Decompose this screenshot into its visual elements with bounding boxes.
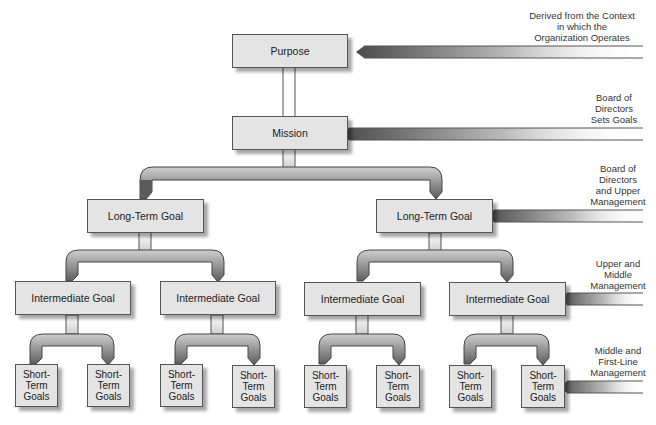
short-term-line1: Short-	[168, 369, 195, 380]
side-label-purpose: Derived from the Context in which the Or…	[516, 10, 648, 43]
side-label-short-term: Middle and First-Line Management	[586, 345, 650, 378]
side-arrow-intermediate	[559, 293, 643, 305]
purpose-box: Purpose	[232, 34, 348, 68]
mission-box: Mission	[232, 116, 348, 150]
short-term-goals-box-8: Short- Term Goals	[521, 365, 565, 408]
long-term-goal-box-right: Long-Term Goal	[376, 199, 493, 233]
int-3-branch-arrow	[319, 315, 405, 365]
short-term-line1: Short-	[240, 370, 267, 381]
short-term-line3: Goals	[385, 392, 411, 403]
short-term-line2: Term	[532, 381, 554, 392]
long-term-goal-label: Long-Term Goal	[397, 211, 472, 222]
short-term-line3: Goals	[457, 392, 483, 403]
short-term-line2: Term	[387, 381, 409, 392]
side-arrow-mission	[341, 128, 643, 140]
side-label-intermediate: Upper and Middle Management	[586, 258, 650, 291]
intermediate-goal-box-1: Intermediate Goal	[15, 281, 131, 315]
short-term-line2: Term	[97, 380, 119, 391]
long-term-goal-box-left: Long-Term Goal	[87, 199, 204, 233]
short-term-line1: Short-	[457, 370, 484, 381]
short-term-line2: Term	[170, 380, 192, 391]
intermediate-goal-box-3: Intermediate Goal	[304, 282, 421, 316]
short-term-goals-box-4: Short- Term Goals	[232, 365, 275, 408]
short-term-line1: Short-	[384, 370, 411, 381]
long-term-goal-label: Long-Term Goal	[108, 211, 183, 222]
purpose-mission-connector	[283, 67, 295, 116]
short-term-line2: Term	[459, 381, 481, 392]
short-term-goals-box-3: Short- Term Goals	[160, 364, 203, 407]
intermediate-goal-label: Intermediate Goal	[31, 293, 114, 304]
short-term-line1: Short-	[529, 370, 556, 381]
intermediate-goal-label: Intermediate Goal	[321, 294, 404, 305]
short-term-goals-box-6: Short- Term Goals	[376, 365, 420, 408]
short-term-goals-box-1: Short- Term Goals	[15, 364, 58, 407]
side-arrow-long-term	[486, 210, 643, 222]
side-label-mission: Board of Directors Sets Goals	[580, 92, 648, 125]
short-term-line3: Goals	[240, 392, 266, 403]
short-term-line3: Goals	[168, 391, 194, 402]
side-arrow-purpose	[356, 46, 643, 58]
short-term-line3: Goals	[312, 392, 338, 403]
int-2-branch-arrow	[175, 315, 260, 365]
short-term-line2: Term	[25, 380, 47, 391]
side-arrow-short-term	[559, 381, 643, 393]
mission-branch-arrow	[140, 149, 442, 199]
short-term-line1: Short-	[312, 370, 339, 381]
side-label-long-term: Board of Directors and Upper Management	[586, 163, 650, 207]
mission-label: Mission	[272, 128, 308, 139]
short-term-line2: Term	[242, 381, 264, 392]
short-term-goals-box-2: Short- Term Goals	[87, 364, 130, 407]
purpose-label: Purpose	[270, 46, 309, 57]
short-term-line3: Goals	[530, 392, 556, 403]
short-term-line1: Short-	[23, 369, 50, 380]
short-term-goals-box-5: Short- Term Goals	[304, 365, 347, 408]
int-1-branch-arrow	[30, 315, 114, 365]
short-term-line2: Term	[314, 381, 336, 392]
short-term-line3: Goals	[23, 391, 49, 402]
intermediate-goal-box-4: Intermediate Goal	[449, 282, 566, 316]
int-4-branch-arrow	[464, 315, 549, 365]
ltg-right-branch-arrow	[357, 233, 513, 282]
short-term-line3: Goals	[95, 391, 121, 402]
intermediate-goal-label: Intermediate Goal	[176, 293, 259, 304]
intermediate-goal-label: Intermediate Goal	[466, 294, 549, 305]
short-term-goals-box-7: Short- Term Goals	[449, 365, 492, 408]
ltg-left-branch-arrow	[66, 232, 224, 282]
short-term-line1: Short-	[95, 369, 122, 380]
intermediate-goal-box-2: Intermediate Goal	[160, 281, 276, 315]
